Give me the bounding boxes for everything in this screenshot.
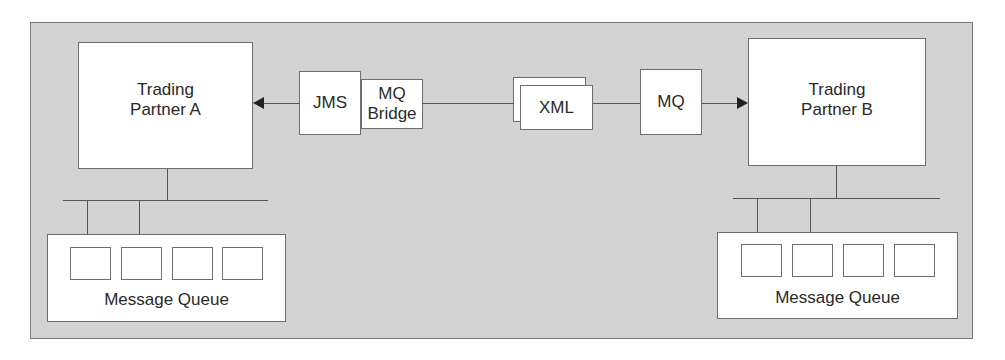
queue-a-slot-2 <box>121 247 162 280</box>
bus-b-drop-2 <box>810 198 811 232</box>
connector-jms-to-partner-a <box>262 103 299 104</box>
trading-partner-a-box: Trading Partner A <box>78 42 253 169</box>
partner-a-drop-line <box>167 169 168 201</box>
arrowhead-right-icon <box>737 97 748 109</box>
message-queue-a-label: Message Queue <box>48 290 285 310</box>
queue-a-slot-1 <box>70 247 111 280</box>
message-queue-b-label: Message Queue <box>718 288 957 308</box>
message-queue-b: Message Queue <box>717 232 958 319</box>
queue-b-slot-4 <box>894 244 935 277</box>
xml-label: XML <box>539 98 574 118</box>
connector-bridge-to-xml <box>423 103 514 104</box>
xml-document-box: XML <box>520 85 593 130</box>
queue-a-slot-4 <box>222 247 263 280</box>
mq-label: MQ <box>657 92 684 112</box>
message-queue-a: Message Queue <box>47 234 286 322</box>
bus-line-a <box>63 200 268 201</box>
queue-b-slot-2 <box>792 244 833 277</box>
arrowhead-left-icon <box>253 97 264 109</box>
bus-a-drop-1 <box>87 200 88 234</box>
trading-partner-b-label: Trading Partner B <box>801 80 873 120</box>
jms-box: JMS <box>299 71 361 135</box>
mq-box: MQ <box>640 69 702 135</box>
partner-b-drop-line <box>836 166 837 199</box>
connector-mq-to-partner-b <box>702 103 738 104</box>
trading-partner-b-box: Trading Partner B <box>748 38 926 166</box>
jms-label: JMS <box>313 93 347 113</box>
bus-line-b <box>733 198 940 199</box>
queue-b-slot-3 <box>843 244 884 277</box>
queue-b-slot-1 <box>741 244 782 277</box>
bus-a-drop-2 <box>139 200 140 234</box>
queue-a-slot-3 <box>172 247 213 280</box>
bus-b-drop-1 <box>757 198 758 232</box>
mq-bridge-label: MQ Bridge <box>367 84 416 124</box>
trading-partner-a-label: Trading Partner A <box>130 80 201 120</box>
connector-xml-to-mq <box>593 103 640 104</box>
mq-bridge-box: MQ Bridge <box>361 79 423 129</box>
